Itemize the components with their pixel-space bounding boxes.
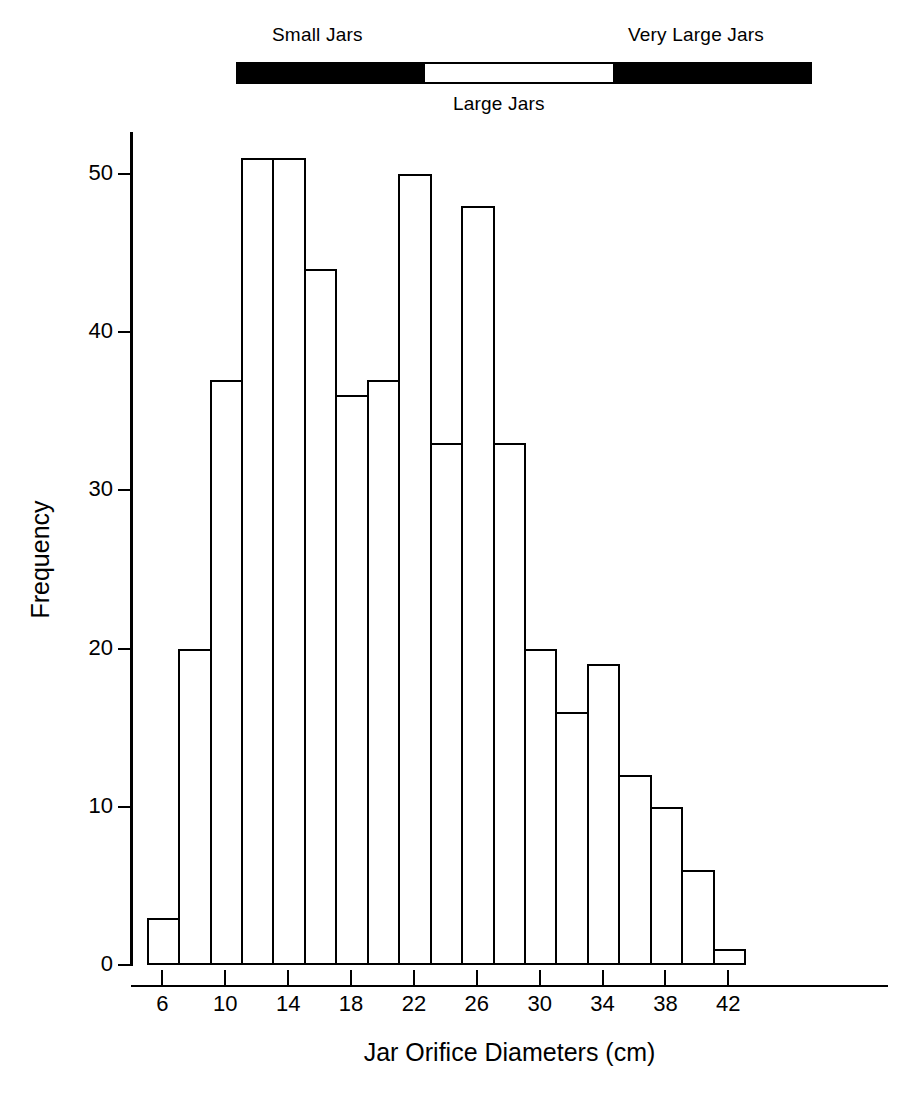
histogram-bar <box>147 918 180 965</box>
histogram-bar <box>398 174 431 965</box>
histogram-bar <box>618 775 651 965</box>
histogram-bar <box>650 807 683 965</box>
histogram-bar <box>210 380 243 965</box>
histogram-figure: Small Jars Very Large Jars Large Jars 01… <box>0 0 917 1095</box>
histogram-bars <box>0 0 917 1095</box>
histogram-bar <box>555 712 588 965</box>
histogram-bar <box>367 380 400 965</box>
histogram-bar <box>524 649 557 965</box>
histogram-bar <box>430 443 463 965</box>
histogram-bar <box>681 870 714 965</box>
histogram-bar <box>493 443 526 965</box>
x-axis-title: Jar Orifice Diameters (cm) <box>131 1038 888 1067</box>
histogram-bar <box>272 158 305 965</box>
histogram-bar <box>587 664 620 965</box>
histogram-bar <box>713 949 746 965</box>
histogram-bar <box>461 206 494 965</box>
histogram-bar <box>178 649 211 965</box>
y-axis-title: Frequency <box>26 460 55 660</box>
histogram-bar <box>241 158 274 965</box>
histogram-bar <box>335 395 368 965</box>
histogram-bar <box>304 269 337 965</box>
